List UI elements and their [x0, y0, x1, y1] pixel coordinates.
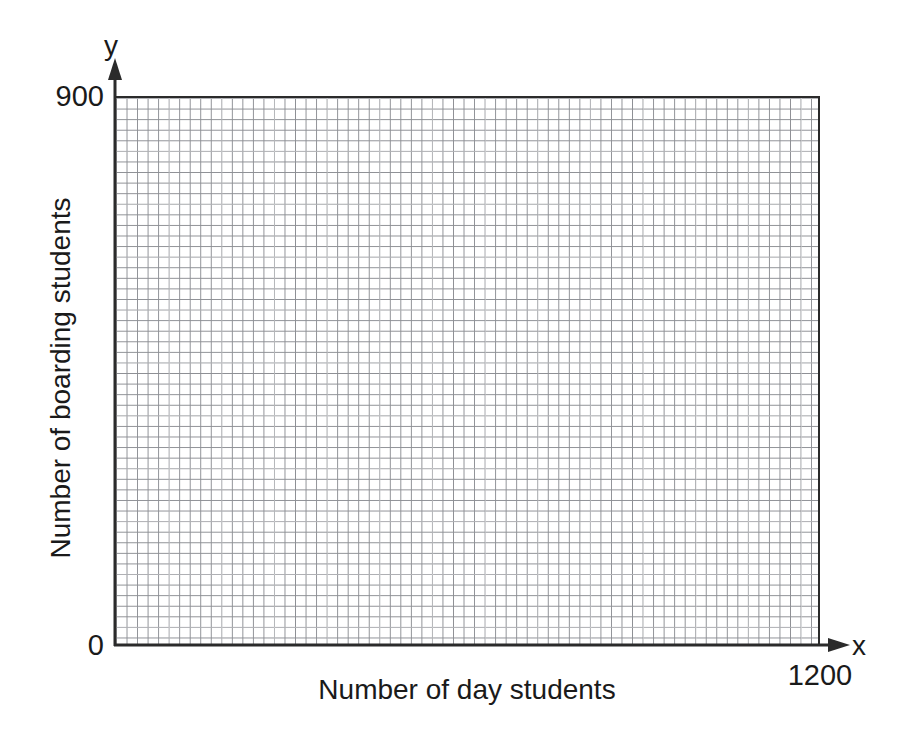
x-axis-letter: x [852, 632, 866, 660]
x-axis-title: Number of day students [114, 676, 820, 704]
y-axis-title: Number of boarding students [47, 103, 75, 653]
y-axis-arrowhead-icon [108, 58, 122, 80]
graph-figure: 900 0 1200 y x Number of day students Nu… [0, 0, 912, 744]
x-axis-arrowhead-icon [828, 638, 850, 652]
y-axis-letter: y [104, 32, 118, 60]
axis-lines [0, 0, 912, 744]
